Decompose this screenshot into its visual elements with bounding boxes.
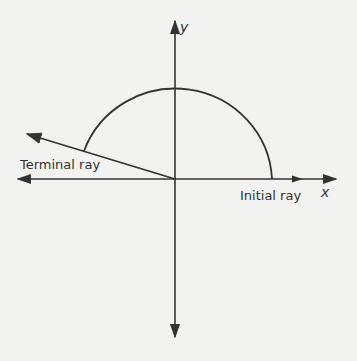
angle-arc [84, 89, 272, 179]
initial-ray-arrowhead [292, 176, 303, 183]
terminal-ray-label: Terminal ray [20, 158, 100, 171]
y-axis-label: y [180, 20, 188, 34]
x-axis-label: x [321, 185, 329, 199]
initial-ray-label: Initial ray [240, 189, 301, 202]
angle-diagram [0, 0, 357, 361]
